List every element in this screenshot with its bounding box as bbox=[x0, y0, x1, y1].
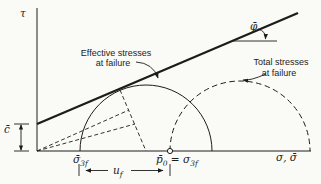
tau-axis-label: τ bbox=[20, 7, 26, 19]
phi-label: φ̄ bbox=[250, 20, 258, 32]
mohr-circle-diagram: τ σ, σ̄ φ̄ c̄ Effective stresses at fail… bbox=[0, 0, 321, 184]
construction-line-lower bbox=[37, 124, 135, 151]
sigma3f-effective-label: σ̄3f bbox=[73, 153, 89, 168]
radius-to-tangent-line bbox=[120, 90, 146, 151]
cohesion-label: c̄ bbox=[4, 123, 10, 135]
effective-stress-circle bbox=[80, 85, 212, 151]
effective-label-line2: at failure bbox=[96, 58, 131, 68]
cohesion-arrow-up bbox=[19, 124, 23, 130]
uf-label: uf bbox=[113, 164, 124, 179]
p0-equals-sigma3f-label: p̄0 = σ3f bbox=[156, 153, 199, 168]
total-label-line1: Total stresses bbox=[253, 57, 309, 67]
effective-leader-arrow bbox=[136, 62, 158, 78]
cohesion-arrow-down bbox=[19, 146, 23, 152]
total-label-line2: at failure bbox=[262, 68, 297, 78]
total-stress-circle bbox=[170, 81, 310, 151]
sigma-axis-label: σ, σ̄ bbox=[276, 151, 298, 163]
effective-label-line1: Effective stresses bbox=[81, 48, 152, 58]
